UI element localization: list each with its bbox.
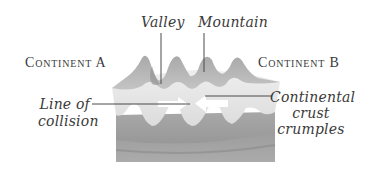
continental-crust-label-3: crumples xyxy=(270,121,352,137)
continental-crust-label-1: Continental xyxy=(270,89,352,105)
valley-label: Valley xyxy=(141,14,185,30)
line-of-collision-label-1: Line of xyxy=(38,96,90,112)
continental-crust-label-2: crust xyxy=(270,105,352,121)
continent-a-label: Continent A xyxy=(25,55,107,71)
line-of-collision-label-2: collision xyxy=(38,113,90,129)
continental-collision-diagram: Continent A Continent B Valley Mountain … xyxy=(0,0,370,179)
continent-b-label: Continent B xyxy=(258,55,340,71)
mountain-label: Mountain xyxy=(198,14,268,30)
